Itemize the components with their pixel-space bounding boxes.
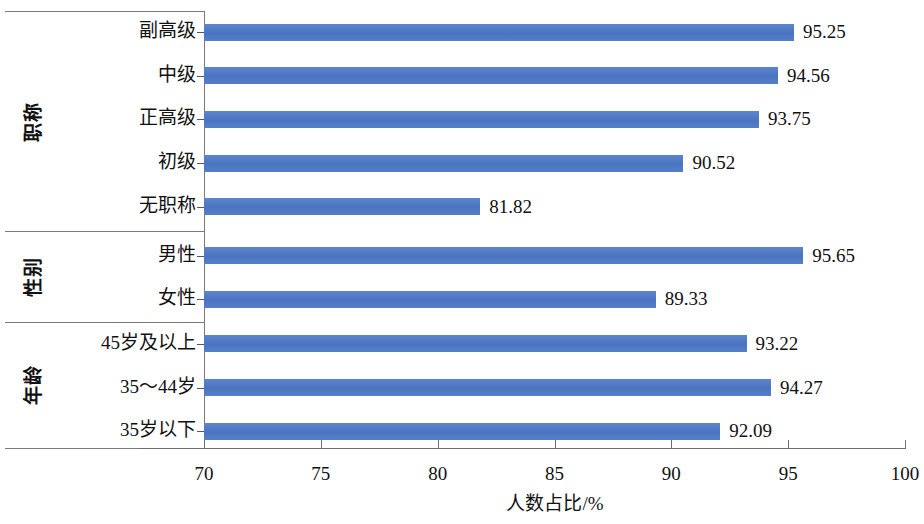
value-tick-4 <box>671 440 672 449</box>
group-label-text: 职称 <box>18 101 45 141</box>
bar-9 <box>204 423 720 440</box>
value-tick-5 <box>788 440 789 449</box>
category-label-9: 35岁以下 <box>60 420 196 439</box>
bar-0 <box>204 24 794 41</box>
category-label-3: 初级 <box>60 152 196 171</box>
value-tick-6 <box>905 440 906 449</box>
x-axis-title: 人数占比/% <box>355 494 755 513</box>
value-tick-0 <box>204 440 205 449</box>
bar-value-label-5: 95.65 <box>812 246 855 265</box>
value-tick-label-3: 85 <box>515 464 595 483</box>
bar-value-label-7: 93.22 <box>756 334 799 353</box>
category-label-0: 副高级 <box>60 21 196 40</box>
bar-2 <box>204 111 759 128</box>
group-label-1: 性别 <box>11 231 51 321</box>
bar-value-label-8: 94.27 <box>780 378 823 397</box>
value-axis-line <box>140 448 905 449</box>
category-label-4: 无职称 <box>60 196 196 215</box>
category-label-8: 35～44岁 <box>60 377 196 396</box>
bar-4 <box>204 198 480 215</box>
bar-1 <box>204 67 778 84</box>
category-label-1: 中级 <box>60 65 196 84</box>
bar-value-label-2: 93.75 <box>768 109 811 128</box>
bar-value-label-3: 90.52 <box>692 153 735 172</box>
category-label-2: 正高级 <box>60 108 196 127</box>
group-label-text: 性别 <box>18 256 45 296</box>
bar-3 <box>204 155 683 172</box>
bar-6 <box>204 291 656 308</box>
bar-value-label-6: 89.33 <box>665 289 708 308</box>
category-label-6: 女性 <box>60 288 196 307</box>
bar-value-label-9: 92.09 <box>729 421 772 440</box>
value-tick-1 <box>321 440 322 449</box>
value-tick-label-1: 75 <box>281 464 361 483</box>
bar-value-label-0: 95.25 <box>803 22 846 41</box>
group-label-2: 年龄 <box>11 322 51 448</box>
bar-7 <box>204 335 747 352</box>
bar-8 <box>204 379 771 396</box>
category-label-7: 45岁及以上 <box>60 333 196 352</box>
value-tick-label-4: 90 <box>631 464 711 483</box>
category-label-5: 男性 <box>60 245 196 264</box>
value-tick-label-5: 95 <box>748 464 828 483</box>
bar-5 <box>204 247 803 264</box>
bar-value-label-4: 81.82 <box>489 197 532 216</box>
group-label-0: 职称 <box>11 11 51 231</box>
value-tick-label-6: 100 <box>865 464 924 483</box>
value-tick-2 <box>438 440 439 449</box>
bar-value-label-1: 94.56 <box>787 66 830 85</box>
group-label-text: 年龄 <box>18 365 45 405</box>
value-tick-label-2: 80 <box>398 464 478 483</box>
value-tick-3 <box>555 440 556 449</box>
value-tick-label-0: 70 <box>164 464 244 483</box>
